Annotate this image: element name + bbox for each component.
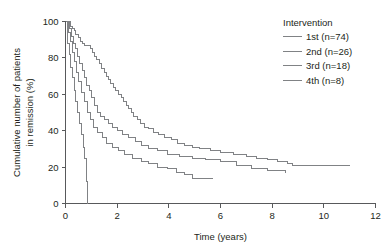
x-tick-label: 8 <box>270 210 275 221</box>
legend-label-3: 3rd (n=18) <box>306 60 350 71</box>
x-tick-label: 2 <box>115 210 120 221</box>
y-tick-label: 100 <box>43 16 59 27</box>
x-axis-title-text: Time (years) <box>194 231 247 242</box>
x-tick-label: 0 <box>63 210 68 221</box>
x-axis-title: Time (years) <box>194 231 247 242</box>
y-axis-title-line-1: Cumulative number of patients <box>11 48 22 177</box>
y-tick-label: 80 <box>48 52 59 63</box>
y-tick-label: 60 <box>48 89 59 100</box>
legend-label-1: 1st (n=74) <box>306 31 349 42</box>
legend-label-2: 2nd (n=26) <box>306 46 352 57</box>
x-tick-label: 6 <box>218 210 223 221</box>
y-tick-label: 0 <box>53 198 58 209</box>
legend-label-4: 4th (n=8) <box>306 75 344 86</box>
y-axis-title-line-2: in remission (%) <box>24 78 35 146</box>
x-tick-label: 10 <box>319 210 330 221</box>
chart-figure: Cumulative number of patientsin remissio… <box>0 0 392 251</box>
x-tick-label: 4 <box>166 210 171 221</box>
y-tick-label: 20 <box>48 162 59 173</box>
survival-curve-chart: Cumulative number of patientsin remissio… <box>0 0 392 251</box>
legend-title-text: Intervention <box>283 17 333 28</box>
x-tick-label: 12 <box>370 210 381 221</box>
y-tick-label: 40 <box>48 125 59 136</box>
